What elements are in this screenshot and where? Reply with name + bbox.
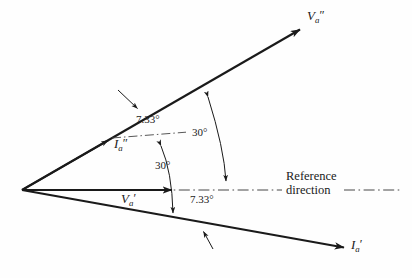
label-v-prime-a-text: V bbox=[121, 191, 129, 206]
angle-label-30-upper: 30° bbox=[192, 127, 207, 139]
label-v-double-prime-a-text: V bbox=[307, 8, 315, 23]
label-v-prime-a-prime: ′ bbox=[133, 191, 136, 205]
reference-direction-label: Reference direction bbox=[286, 170, 337, 197]
angle-label-30-lower: 30° bbox=[155, 160, 170, 172]
label-v-prime-a: Va′ bbox=[121, 192, 136, 208]
pointer-to-i-prime-line bbox=[204, 232, 214, 250]
arc-angle-30-lower bbox=[161, 146, 173, 213]
label-v-double-prime-a-prime: ″ bbox=[319, 8, 324, 22]
reference-direction-line1: Reference bbox=[286, 170, 337, 184]
label-i-prime-a-prime: ′ bbox=[360, 237, 363, 251]
reference-direction-line2: direction bbox=[286, 184, 337, 198]
pointer-to-v-double-prime-line bbox=[118, 90, 138, 109]
phasor-diagram-figure: Va″ Ia″ Va′ Ia′ 7.33° 30° 30° 7.33° Refe… bbox=[0, 0, 412, 278]
angle-label-7-33-upper: 7.33° bbox=[136, 114, 160, 126]
label-i-double-prime-a-prime: ″ bbox=[123, 136, 128, 150]
label-i-prime-a: Ia′ bbox=[351, 238, 362, 254]
angle-label-7-33-lower: 7.33° bbox=[190, 194, 214, 206]
label-v-double-prime-a: Va″ bbox=[307, 9, 325, 25]
label-i-double-prime-a: Ia″ bbox=[114, 137, 128, 153]
arc-angle-30-upper bbox=[208, 97, 226, 181]
vector-i-double-prime-a bbox=[22, 141, 108, 191]
vector-i-prime-a bbox=[22, 190, 344, 248]
